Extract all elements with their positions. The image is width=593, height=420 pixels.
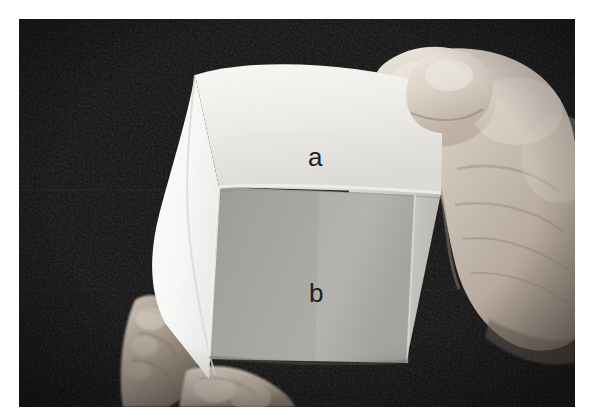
face-label-a: a — [308, 144, 322, 170]
photograph-canvas — [19, 19, 575, 407]
face-label-b: b — [309, 280, 323, 306]
photograph: a b — [19, 19, 575, 407]
figure-page: a b — [0, 0, 593, 420]
